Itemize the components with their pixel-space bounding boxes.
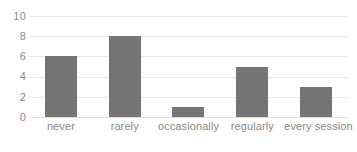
x-tick-label-regularly: regularly: [220, 120, 284, 133]
bar-chart: 10 8 6 4 2 0: [0, 0, 357, 152]
y-tick-label-6: 6: [0, 51, 26, 62]
y-axis: 10 8 6 4 2 0: [0, 0, 26, 152]
bar-slot-every-session: [284, 16, 348, 117]
bar-rarely[interactable]: [109, 36, 141, 117]
x-tick-label-every-session: every session: [284, 120, 348, 133]
y-tick-label-0: 0: [0, 112, 26, 123]
y-tick-label-4: 4: [0, 71, 26, 82]
x-tick-label-never: never: [29, 120, 93, 133]
x-tick-label-occasionally: occasionally: [157, 120, 221, 133]
bar-regularly[interactable]: [236, 67, 268, 118]
bar-slot-never: [29, 16, 93, 117]
gridline-0-baseline: [29, 117, 348, 118]
x-axis: never rarely occasionally regularly ever…: [29, 120, 348, 140]
bar-never[interactable]: [45, 56, 77, 117]
bar-slot-rarely: [93, 16, 157, 117]
x-tick-label-rarely: rarely: [93, 120, 157, 133]
y-tick-label-10: 10: [0, 11, 26, 22]
y-tick-label-2: 2: [0, 92, 26, 103]
bar-every-session[interactable]: [300, 87, 332, 117]
y-tick-label-8: 8: [0, 31, 26, 42]
bar-slot-occasionally: [157, 16, 221, 117]
bars-layer: [29, 16, 348, 117]
bar-slot-regularly: [220, 16, 284, 117]
plot-area: [29, 16, 348, 117]
bar-occasionally[interactable]: [172, 107, 204, 117]
